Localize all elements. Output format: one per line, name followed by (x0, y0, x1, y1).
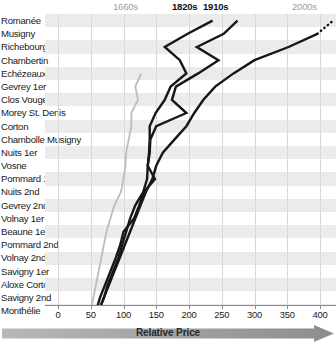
x-tick-label: 150 (141, 309, 171, 320)
x-tick-label: 350 (272, 309, 302, 320)
series-line-2000s (99, 34, 318, 305)
x-tick-label: 300 (240, 309, 270, 320)
era-label-1910s: 1910s (203, 1, 228, 12)
series-line-1820s (99, 21, 213, 305)
series-line-2000s-projection (317, 21, 333, 34)
era-label-1660s: 1660s (113, 1, 138, 12)
chart-root: 1660s 1820s 1910s 2000s RomanéeMusignyRi… (0, 0, 336, 345)
x-tick-label: 250 (207, 309, 237, 320)
era-label-1820s: 1820s (172, 1, 197, 12)
x-axis-line (45, 305, 336, 306)
x-tick-label: 100 (109, 309, 139, 320)
x-tick-label: 50 (76, 309, 106, 320)
plot-area (45, 14, 336, 305)
x-tick-label: 400 (305, 309, 335, 320)
x-axis-title: Relative Price (0, 327, 336, 338)
x-tick-label: 0 (43, 309, 73, 320)
era-label-2000s: 2000s (292, 1, 317, 12)
x-tick-label: 200 (174, 309, 204, 320)
series-lines (45, 14, 336, 305)
